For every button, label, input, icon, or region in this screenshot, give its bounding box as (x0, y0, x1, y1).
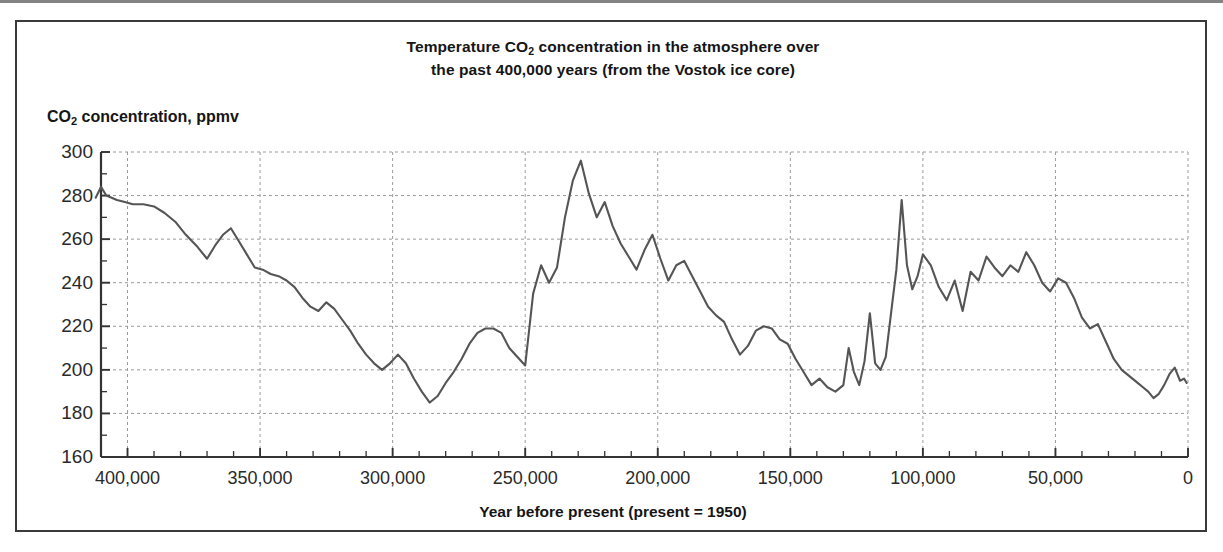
axis-lines (101, 152, 1188, 457)
page-top-rule (0, 0, 1223, 3)
x-tick-label: 250,000 (465, 469, 585, 487)
y-tick-label: 220 (33, 316, 93, 335)
grid-lines (101, 152, 1188, 457)
axis-ticks (101, 152, 1188, 457)
x-axis-title: Year before present (present = 1950) (17, 503, 1209, 521)
x-tick-label: 400,000 (68, 469, 188, 487)
figure-frame: Temperature CO2 concentration in the atm… (15, 20, 1207, 532)
y-tick-label: 260 (33, 229, 93, 248)
figure-page: Temperature CO2 concentration in the atm… (0, 0, 1223, 552)
x-tick-label: 350,000 (200, 469, 320, 487)
co2-series-line (96, 161, 1187, 403)
x-tick-label: 100,000 (863, 469, 983, 487)
x-tick-label: 0 (1128, 469, 1223, 487)
x-tick-label: 300,000 (333, 469, 453, 487)
y-tick-label: 300 (33, 142, 93, 161)
y-tick-label: 160 (33, 447, 93, 466)
y-tick-label: 280 (33, 186, 93, 205)
y-tick-label: 180 (33, 403, 93, 422)
x-tick-label: 200,000 (598, 469, 718, 487)
x-tick-label: 50,000 (995, 469, 1115, 487)
x-tick-label: 150,000 (730, 469, 850, 487)
y-tick-label: 240 (33, 273, 93, 292)
y-tick-label: 200 (33, 360, 93, 379)
plot-area: 300280260240220200180160 400,000350,0003… (17, 22, 1209, 534)
co2-line-chart (17, 22, 1209, 534)
